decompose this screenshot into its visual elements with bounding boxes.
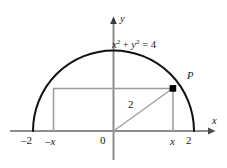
tick-label-positive-two: 2	[186, 135, 192, 146]
x-axis-arrowhead	[208, 128, 216, 135]
origin-label: 0	[100, 135, 106, 146]
y-axis-arrowhead	[110, 17, 117, 25]
x-axis-label: x	[212, 116, 217, 127]
math-figure: x2 + y2 = 4 y x P 2 0 –2 –x x 2	[0, 0, 227, 168]
point-p-marker	[170, 85, 177, 92]
equation-plus-operator: +	[120, 39, 131, 50]
equation-equals-value: = 4	[140, 39, 156, 50]
figure-canvas	[0, 0, 227, 168]
radius-segment	[114, 89, 173, 132]
radius-length-label: 2	[128, 99, 134, 110]
tick-label-positive-x: x	[170, 136, 175, 147]
equation-label: x2 + y2 = 4	[112, 40, 156, 51]
tick-label-negative-x: –x	[45, 136, 55, 147]
tick-label-negative-two: –2	[21, 135, 32, 146]
y-axis-label: y	[120, 14, 125, 25]
point-p-label: P	[187, 71, 193, 82]
